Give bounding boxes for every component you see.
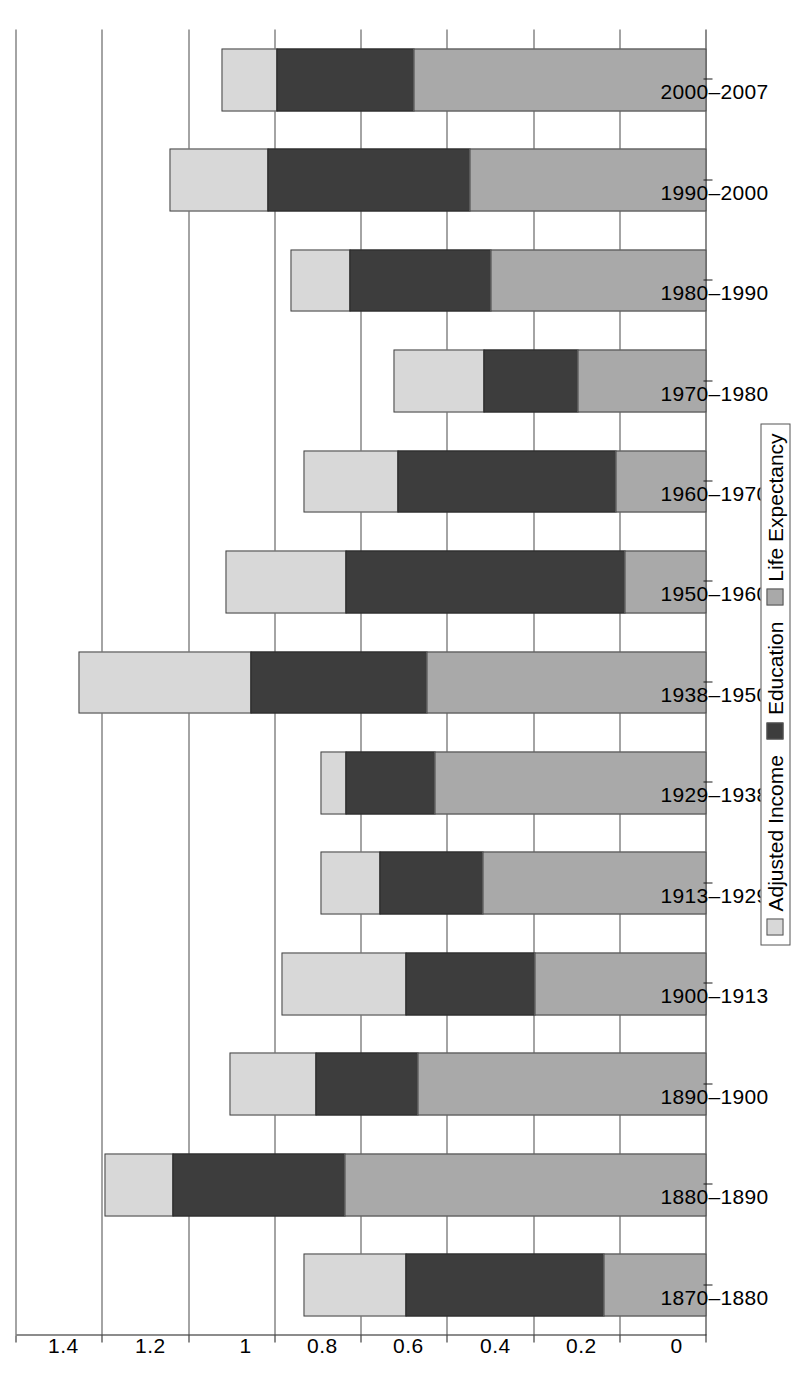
axis-tick — [705, 1335, 706, 1342]
category-label: 1870–1880 — [660, 1285, 768, 1309]
bar-group — [16, 1134, 706, 1234]
swatch-adjusted-income-icon — [766, 918, 783, 935]
bar-segment-adjusted-income[interactable] — [320, 852, 380, 915]
category-label: 1980–1990 — [660, 280, 768, 304]
stacked-bar[interactable] — [78, 651, 706, 714]
bar-segment-adjusted-income[interactable] — [104, 1153, 173, 1216]
bar-group — [16, 632, 706, 732]
stacked-bar[interactable] — [290, 249, 706, 312]
bar-segment-adjusted-income[interactable] — [78, 651, 251, 714]
category-cell: 1960–1970 — [712, 431, 752, 531]
category-cell: 1938–1950 — [712, 632, 752, 732]
bar-group — [16, 129, 706, 229]
bar-segment-education[interactable] — [172, 1153, 345, 1216]
axis-tick-label: 1.4 — [48, 1334, 78, 1358]
stacked-bar[interactable] — [303, 450, 706, 513]
category-cell: 1980–1990 — [712, 230, 752, 330]
stacked-bar[interactable] — [320, 751, 706, 814]
axis-tick-label: 1 — [239, 1334, 251, 1358]
category-cell: 1929–1938 — [712, 732, 752, 832]
swatch-education-icon — [766, 722, 783, 739]
bar-segment-adjusted-income[interactable] — [320, 751, 346, 814]
bar-segment-adjusted-income[interactable] — [290, 249, 350, 312]
axis-tick — [274, 1335, 275, 1342]
bar-segment-education[interactable] — [405, 1253, 603, 1316]
bar-segment-education[interactable] — [483, 349, 578, 412]
bar-segment-education[interactable] — [397, 450, 617, 513]
legend-label-life-expectancy: Life Expectancy — [763, 433, 787, 581]
bar-group — [16, 933, 706, 1033]
category-cell: 1950–1960 — [712, 531, 752, 631]
legend-item-education: Education — [763, 621, 787, 738]
bar-group — [16, 431, 706, 531]
bar-group — [16, 1034, 706, 1134]
category-label: 1880–1890 — [660, 1184, 768, 1208]
stacked-bar[interactable] — [169, 148, 706, 211]
category-cell: 1900–1913 — [712, 933, 752, 1033]
axis-tick — [533, 1335, 534, 1342]
stacked-bar[interactable] — [393, 349, 706, 412]
bar-group — [16, 230, 706, 330]
stacked-bar[interactable] — [229, 1052, 706, 1115]
bar-segment-education[interactable] — [315, 1052, 419, 1115]
category-label: 1929–1938 — [660, 782, 768, 806]
axis-tick-label: 0 — [670, 1334, 682, 1358]
bar-segment-adjusted-income[interactable] — [393, 349, 484, 412]
bar-segment-education[interactable] — [267, 148, 470, 211]
axis-tick — [360, 1335, 361, 1342]
bar-group — [16, 531, 706, 631]
stacked-bar[interactable] — [225, 550, 706, 613]
axis-tick — [101, 1335, 102, 1342]
bar-segment-education[interactable] — [379, 852, 483, 915]
axis-tick — [446, 1335, 447, 1342]
bar-segment-adjusted-income[interactable] — [169, 148, 268, 211]
bar-segment-adjusted-income[interactable] — [221, 48, 277, 111]
axis-tick — [188, 1335, 189, 1342]
bar-segment-life-expectancy[interactable] — [344, 1153, 706, 1216]
legend-item-adjusted-income: Adjusted Income — [763, 755, 787, 935]
category-label: 1938–1950 — [660, 682, 768, 706]
bar-segment-adjusted-income[interactable] — [225, 550, 346, 613]
category-cell: 1913–1929 — [712, 833, 752, 933]
bar-segment-education[interactable] — [250, 651, 427, 714]
legend-label-adjusted-income: Adjusted Income — [763, 755, 787, 911]
category-label: 1960–1970 — [660, 481, 768, 505]
category-cell: 1870–1880 — [712, 1235, 752, 1335]
category-label: 1950–1960 — [660, 581, 768, 605]
bar-segment-adjusted-income[interactable] — [303, 1253, 407, 1316]
category-tick — [703, 179, 712, 180]
bar-segment-education[interactable] — [405, 952, 534, 1015]
category-tick — [703, 380, 712, 381]
bar-series-group — [16, 29, 706, 1335]
axis-tick — [15, 1335, 16, 1342]
bar-group — [16, 29, 706, 129]
stacked-bar[interactable] — [320, 852, 706, 915]
category-axis: 1870–18801880–18901890–19001900–19131913… — [712, 29, 752, 1335]
bar-segment-education[interactable] — [345, 751, 436, 814]
category-cell: 1880–1890 — [712, 1134, 752, 1234]
legend-label-education: Education — [763, 621, 787, 714]
category-label: 1900–1913 — [660, 983, 768, 1007]
category-label: 2000–2007 — [660, 79, 768, 103]
bar-segment-adjusted-income[interactable] — [229, 1052, 315, 1115]
stacked-bar[interactable] — [221, 48, 706, 111]
bar-segment-education[interactable] — [345, 550, 625, 613]
rotated-figure: 00.20.40.60.811.21.41.6 1870–18801880–18… — [0, 0, 804, 1375]
bar-segment-adjusted-income[interactable] — [303, 450, 398, 513]
stacked-bar[interactable] — [104, 1153, 706, 1216]
stacked-bar[interactable] — [303, 1253, 706, 1316]
category-label: 1970–1980 — [660, 381, 768, 405]
chart-legend: Adjusted Income Education Life Expectanc… — [760, 423, 790, 945]
stacked-bar[interactable] — [281, 952, 706, 1015]
axis-tick — [619, 1335, 620, 1342]
bar-segment-education[interactable] — [349, 249, 491, 312]
legend-item-life-expectancy: Life Expectancy — [763, 433, 787, 605]
category-label: 1890–1900 — [660, 1084, 768, 1108]
axis-tick-label: 0.6 — [393, 1334, 423, 1358]
bar-group — [16, 833, 706, 933]
axis-tick-label: 0.4 — [479, 1334, 509, 1358]
axis-tick-label: 1.2 — [134, 1334, 164, 1358]
plot-area: 00.20.40.60.811.21.41.6 — [16, 29, 706, 1335]
bar-segment-adjusted-income[interactable] — [281, 952, 406, 1015]
bar-segment-education[interactable] — [276, 48, 414, 111]
